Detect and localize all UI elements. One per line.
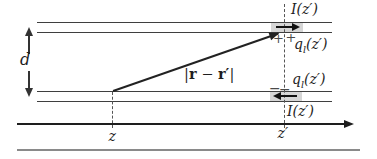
charge-symbol: q: [292, 71, 301, 87]
charge-argument: (z′): [304, 71, 325, 87]
vector-r: r: [189, 65, 197, 82]
bottom-conductor-lower-line: [37, 101, 332, 102]
d-arrow-shaft-lower: [28, 71, 29, 89]
minus-sign-right: −: [279, 82, 291, 96]
vector-r-prime: r′: [218, 65, 229, 82]
charge-label-top: ql(z′): [294, 37, 328, 52]
vector-bar-right: |: [229, 66, 234, 82]
charge-symbol: q: [294, 36, 303, 52]
d-arrow-down-head-icon: [25, 88, 33, 97]
transmission-line-diagram: d |r − r′| + + − − I(z′) ql(z′) ql(z′) I…: [0, 0, 377, 159]
top-current-arrow-shaft: [276, 26, 293, 28]
z-prime-coordinate-label: z′: [278, 126, 289, 141]
plus-sign-left: +: [273, 32, 284, 45]
charge-argument: (z′): [306, 36, 327, 52]
current-label-bottom: I(z′): [287, 104, 314, 119]
z-axis-arrowhead-icon: [344, 120, 354, 128]
dashed-guide-z-prime: [284, 4, 285, 128]
z-coordinate-label: z: [109, 129, 116, 144]
separation-label: d: [20, 51, 30, 69]
position-vector-label: |r − r′|: [184, 66, 234, 83]
charge-label-bottom: ql(z′): [292, 72, 326, 87]
vector-minus: −: [197, 66, 218, 82]
z-axis-line: [17, 123, 346, 125]
bottom-baseline: [17, 149, 360, 151]
current-label-top: I(z′): [291, 2, 318, 17]
